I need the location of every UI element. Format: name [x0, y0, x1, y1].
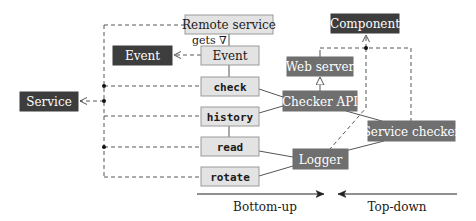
- event-light-label: Event: [212, 49, 247, 63]
- rotate-label: rotate: [210, 171, 250, 184]
- gets-label: gets ∇: [192, 34, 227, 47]
- node-logger[interactable]: Logger: [293, 149, 348, 169]
- node-event-light[interactable]: Event: [201, 46, 259, 65]
- node-component[interactable]: Component: [330, 14, 400, 33]
- junction-dot: [102, 84, 106, 88]
- history-label: history: [207, 111, 254, 124]
- node-history[interactable]: history: [201, 107, 259, 126]
- node-service[interactable]: Service: [20, 92, 78, 111]
- junction-dot: [364, 46, 368, 50]
- top-down-label: Top-down: [368, 200, 427, 214]
- logger-label: Logger: [299, 153, 343, 167]
- node-web-server[interactable]: Web server: [286, 57, 355, 76]
- event-dark-label: Event: [125, 49, 160, 63]
- web-server-label: Web server: [286, 60, 355, 74]
- node-remote-service[interactable]: Remote service: [182, 15, 276, 34]
- node-service-checker[interactable]: Service checker: [363, 121, 461, 141]
- node-rotate[interactable]: rotate: [201, 167, 259, 186]
- node-event-dark[interactable]: Event: [113, 46, 172, 65]
- bottom-up-label: Bottom-up: [233, 200, 297, 214]
- read-label: read: [217, 141, 244, 154]
- component-label: Component: [330, 17, 400, 31]
- node-check[interactable]: check: [201, 77, 259, 96]
- service-label: Service: [26, 95, 72, 109]
- node-checker-api[interactable]: Checker API: [282, 91, 358, 111]
- remote-service-label: Remote service: [182, 18, 276, 32]
- direction-axis: Bottom-up Top-down: [197, 194, 457, 214]
- junction-dot: [102, 145, 106, 149]
- service-checker-label: Service checker: [363, 125, 461, 139]
- architecture-diagram: Remote service gets ∇ Event Event check …: [0, 0, 476, 221]
- junction-dot: [102, 99, 106, 103]
- checker-api-label: Checker API: [282, 95, 358, 109]
- node-read[interactable]: read: [201, 137, 259, 156]
- check-label: check: [213, 81, 246, 94]
